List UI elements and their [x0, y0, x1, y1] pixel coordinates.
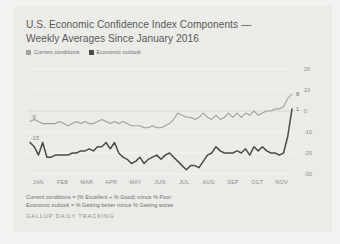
chart-title-line-2: Weekly Averages Since January 2016 [26, 32, 316, 46]
legend-label: Current conditions [34, 49, 80, 55]
footnote-current-conditions: Current conditions = (% Excellent + % Go… [26, 193, 316, 201]
chart-svg: 20100-10-20-30 -5 -15 8 1 [26, 62, 320, 178]
x-axis-tick-label: FEB [50, 179, 74, 185]
legend-item-economic-outlook: Economic outlook [89, 49, 141, 55]
y-axis-tick-labels: 20100-10-20-30 [304, 66, 312, 177]
series-line-economic-outlook [30, 109, 292, 170]
x-axis-tick-label: MAR [75, 179, 99, 185]
chart-panel: U.S. Economic Confidence Index Component… [14, 6, 332, 232]
x-axis-tick-label: SEP [221, 179, 245, 185]
start-label-current-conditions: -5 [31, 114, 36, 120]
y-axis-tick-label: -10 [304, 129, 312, 135]
x-axis-tick-labels: JANFEBMARAPRMAYJUNJULAUGSEPOCTNOV [26, 179, 294, 185]
x-axis-tick-label: OCT [245, 179, 269, 185]
chart-footnotes: Current conditions = (% Excellent + % Go… [26, 193, 316, 210]
source-attribution: GALLUP DAILY TRACKING [26, 213, 114, 219]
legend-swatch-icon [26, 50, 31, 55]
x-axis-tick-label: NOV [270, 179, 294, 185]
start-label-economic-outlook: -15 [31, 135, 39, 141]
y-axis-tick-label: -20 [304, 150, 312, 156]
end-label-current-conditions: 8 [296, 91, 299, 97]
x-axis-tick-label: MAY [123, 179, 147, 185]
x-axis-tick-label: AUG [197, 179, 221, 185]
x-axis-tick-label: JUN [148, 179, 172, 185]
plot-area: 20100-10-20-30 -5 -15 8 1 [26, 62, 320, 178]
y-axis-tick-label: 0 [304, 108, 307, 114]
chart-title: U.S. Economic Confidence Index Component… [26, 18, 316, 45]
x-axis-tick-label: JAN [26, 179, 50, 185]
y-axis-tick-label: 10 [304, 87, 310, 93]
x-axis-tick-label: APR [99, 179, 123, 185]
chart-title-line-1: U.S. Economic Confidence Index Component… [26, 18, 316, 32]
y-axis-tick-label: 20 [304, 66, 310, 72]
legend-label: Economic outlook [97, 49, 141, 55]
y-axis-tick-label: -30 [304, 171, 312, 177]
x-axis-tick-label: JUL [172, 179, 196, 185]
legend-item-current-conditions: Current conditions [26, 49, 80, 55]
footnote-economic-outlook: Economic outlook = % Getting better minu… [26, 201, 316, 209]
end-label-economic-outlook: 1 [296, 106, 299, 112]
legend-swatch-icon [89, 50, 94, 55]
chart-legend: Current conditions Economic outlook [26, 49, 141, 55]
